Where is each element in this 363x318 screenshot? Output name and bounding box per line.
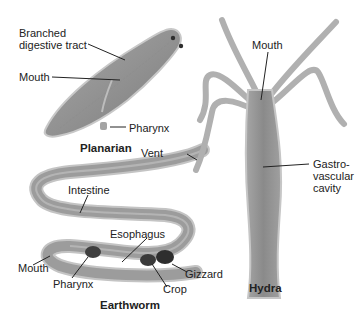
earthworm-gizzard xyxy=(156,250,174,264)
planarian-eyespot xyxy=(171,36,175,40)
planarian-eyespot xyxy=(179,44,183,48)
label-esophagus: Esophagus xyxy=(110,228,165,240)
label-gizzard: Gizzard xyxy=(185,268,223,280)
title-planarian: Planarian xyxy=(80,142,132,154)
label-intestine: Intestine xyxy=(68,184,110,196)
label-earthworm-pharynx: Pharynx xyxy=(53,278,93,290)
digestive-systems-figure: Branched digestive tract Mouth Pharynx P… xyxy=(0,0,363,318)
earthworm-pharynx xyxy=(85,246,101,258)
label-hydra-mouth: Mouth xyxy=(252,39,283,51)
label-planarian-pharynx: Pharynx xyxy=(129,122,169,134)
planarian-pharynx xyxy=(100,122,107,130)
label-branched-digestive-tract: Branched digestive tract xyxy=(19,27,87,51)
label-planarian-mouth: Mouth xyxy=(19,71,50,83)
title-earthworm: Earthworm xyxy=(100,299,160,311)
earthworm-illustration xyxy=(36,150,203,275)
earthworm-crop xyxy=(140,254,156,266)
title-hydra: Hydra xyxy=(249,282,282,294)
label-gastrovascular-cavity: Gastro- vascular cavity xyxy=(313,158,354,194)
label-earthworm-mouth: Mouth xyxy=(18,262,49,274)
label-crop: Crop xyxy=(163,283,187,295)
label-vent: Vent xyxy=(141,147,163,159)
